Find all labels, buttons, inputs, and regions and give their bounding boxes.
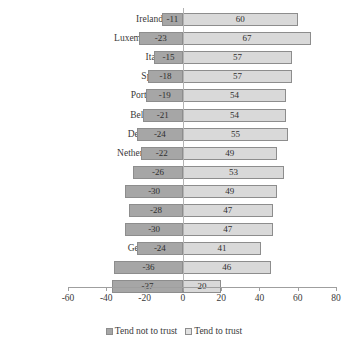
zero-gridline	[183, 8, 184, 287]
x-axis-tick	[145, 287, 146, 291]
bar-negative: -15	[154, 51, 183, 64]
bar-positive: 47	[183, 223, 273, 236]
legend-swatch-icon	[185, 328, 192, 335]
bar-negative: -24	[137, 128, 183, 141]
bar-positive: 60	[183, 13, 298, 26]
x-axis-tick-label: 60	[278, 293, 318, 303]
bar-positive: 53	[183, 166, 284, 179]
x-axis-tick-label: -40	[86, 293, 126, 303]
bar-positive: 57	[183, 70, 292, 83]
diverging-bar-chart: Ireland-1160Luxembourg-2367Italy-1557Spa…	[0, 0, 348, 353]
category-label: Italy	[0, 48, 170, 67]
bar-negative: -30	[125, 223, 182, 236]
bar-negative: -30	[125, 185, 182, 198]
x-axis-tick	[68, 287, 69, 291]
table-row: Finland-3049	[0, 182, 348, 201]
bar-negative: -23	[139, 32, 183, 45]
x-axis-tick-label: -20	[125, 293, 165, 303]
legend-swatch-icon	[106, 328, 113, 335]
x-axis-tick-label: 0	[163, 293, 203, 303]
table-row: Luxembourg-2367	[0, 29, 348, 48]
table-row: France-3047	[0, 220, 348, 239]
table-row: Austria-2847	[0, 201, 348, 220]
bar-positive: 49	[183, 147, 277, 160]
category-label: Ireland	[0, 10, 170, 29]
bar-positive: 57	[183, 51, 292, 64]
bar-negative: -18	[148, 70, 182, 83]
bar-negative: -19	[146, 89, 182, 102]
table-row: Portugal-1954	[0, 86, 348, 105]
x-axis-line	[68, 287, 336, 288]
table-row: Netherlands-2249	[0, 144, 348, 163]
x-axis-tick	[298, 287, 299, 291]
x-axis: -60-40-20020406080	[0, 287, 348, 313]
table-row: Sweden-3646	[0, 258, 348, 277]
x-axis-tick	[336, 287, 337, 291]
table-row: Denmark-2455	[0, 125, 348, 144]
legend-label: Tend to trust	[194, 326, 242, 336]
x-axis-tick	[106, 287, 107, 291]
bar-positive: 47	[183, 204, 273, 217]
bar-negative: -26	[133, 166, 183, 179]
x-axis-tick	[259, 287, 260, 291]
category-label: Spain	[0, 67, 170, 86]
bar-positive: 54	[183, 109, 286, 122]
x-axis-tick-label: 40	[239, 293, 279, 303]
table-row: Belgium-2154	[0, 106, 348, 125]
x-axis-tick-label: -60	[48, 293, 88, 303]
category-label: Portugal	[0, 86, 170, 105]
bar-positive: 67	[183, 32, 311, 45]
bar-negative: -11	[162, 13, 183, 26]
bar-positive: 54	[183, 89, 286, 102]
x-axis-tick	[221, 287, 222, 291]
bar-negative: -22	[141, 147, 183, 160]
legend-label: Tend not to trust	[115, 326, 177, 336]
bar-positive: 55	[183, 128, 288, 141]
x-axis-tick-label: 20	[201, 293, 241, 303]
chart-legend: Tend not to trustTend to trust	[0, 326, 348, 336]
table-row: Ireland-1160	[0, 10, 348, 29]
bar-negative: -28	[129, 204, 183, 217]
x-axis-tick-label: 80	[316, 293, 348, 303]
legend-item[interactable]: Tend not to trust	[106, 326, 177, 336]
bar-positive: 41	[183, 242, 261, 255]
table-row: Greece-2653	[0, 163, 348, 182]
table-row: Italy-1557	[0, 48, 348, 67]
bar-positive: 46	[183, 261, 271, 274]
legend-item[interactable]: Tend to trust	[185, 326, 242, 336]
table-row: Spain-1857	[0, 67, 348, 86]
plot-area: Ireland-1160Luxembourg-2367Italy-1557Spa…	[0, 0, 348, 287]
bar-negative: -21	[143, 109, 183, 122]
bar-positive: 49	[183, 185, 277, 198]
table-row: Germany-2441	[0, 239, 348, 258]
bar-negative: -24	[137, 242, 183, 255]
bar-negative: -36	[114, 261, 183, 274]
x-axis-tick	[183, 287, 184, 291]
